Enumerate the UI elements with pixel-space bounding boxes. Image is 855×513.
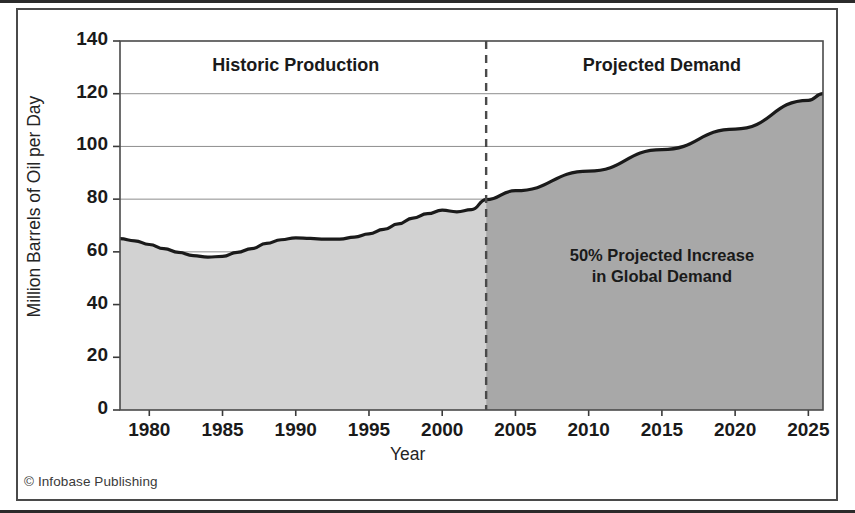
chart-plot: 020406080100120140 198019851990199520002…: [0, 0, 855, 513]
x-axis-title: Year: [390, 444, 425, 465]
y-tick-label: 140: [52, 28, 108, 50]
y-tick-label: 80: [52, 186, 108, 208]
y-tick-label: 40: [52, 292, 108, 314]
annotation-historic-production: Historic Production: [146, 55, 446, 76]
y-tick-label: 100: [52, 133, 108, 155]
copyright-credit: © Infobase Publishing: [24, 474, 158, 489]
figure-root: 020406080100120140 198019851990199520002…: [0, 0, 855, 513]
y-tick-label: 60: [52, 239, 108, 261]
annotation-projected-demand: Projected Demand: [512, 55, 812, 76]
y-tick-label: 20: [52, 344, 108, 366]
annotation-callout-increase: 50% Projected Increase in Global Demand: [512, 245, 812, 287]
y-tick-label: 120: [52, 81, 108, 103]
y-tick-label: 0: [52, 397, 108, 419]
y-axis-title: Million Barrels of Oil per Day: [24, 77, 45, 337]
x-tick-label: 2025: [763, 419, 853, 441]
